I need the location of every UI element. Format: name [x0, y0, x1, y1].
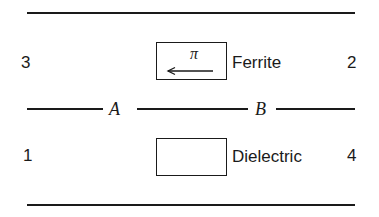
port-4-label: 4	[347, 147, 356, 164]
ferrite-label: Ferrite	[232, 54, 281, 71]
bottom-guide-wall	[27, 204, 355, 206]
left-arrow-icon	[166, 66, 216, 76]
junction-a-label: A	[109, 100, 120, 118]
port-1-label: 1	[23, 147, 32, 164]
middle-wall-segment-left	[27, 108, 103, 110]
middle-wall-segment-right	[276, 108, 355, 110]
pi-symbol: π	[190, 46, 198, 62]
dielectric-label: Dielectric	[232, 148, 302, 165]
port-3-label: 3	[21, 54, 30, 71]
middle-wall-segment-center	[137, 108, 248, 110]
junction-b-label: B	[255, 100, 266, 118]
dielectric-phase-shifter	[156, 138, 227, 176]
top-guide-wall	[27, 12, 355, 14]
port-2-label: 2	[347, 54, 356, 71]
